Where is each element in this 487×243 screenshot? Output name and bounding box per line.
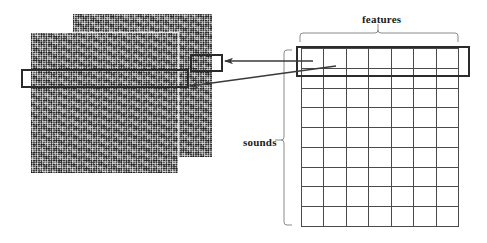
matrix-cell: [392, 148, 414, 168]
matrix-cell: [392, 108, 414, 128]
matrix-cell: [437, 187, 459, 207]
matrix-cell: [347, 207, 369, 227]
matrix-cell: [369, 128, 391, 148]
matrix-cell: [369, 207, 391, 227]
matrix-cell: [392, 168, 414, 188]
matrix-cell: [392, 207, 414, 227]
matrix-cell: [324, 108, 346, 128]
features-brace: [300, 24, 458, 42]
matrix-cell: [437, 108, 459, 128]
matrix-cell: [324, 207, 346, 227]
matrix-cell: [324, 128, 346, 148]
noise-image-front: [31, 33, 178, 173]
matrix-cell: [414, 128, 436, 148]
matrix-cell: [369, 168, 391, 188]
matrix-cell: [347, 148, 369, 168]
matrix-cell: [392, 128, 414, 148]
matrix-cell: [302, 108, 324, 128]
matrix-cell: [414, 187, 436, 207]
matrix-cell: [437, 89, 459, 109]
features-label: features: [362, 13, 401, 25]
matrix-cell: [302, 89, 324, 109]
matrix-cell: [302, 128, 324, 148]
matrix-cell: [392, 89, 414, 109]
matrix-cell: [324, 168, 346, 188]
matrix-cell: [392, 187, 414, 207]
matrix-cell: [369, 89, 391, 109]
noise-image-back-row-highlight: [190, 54, 223, 72]
figure-canvas: features sounds: [0, 0, 487, 243]
matrix-cell: [347, 89, 369, 109]
noise-image-front-row-highlight: [21, 69, 189, 88]
matrix-cell: [414, 108, 436, 128]
matrix-cell: [437, 207, 459, 227]
matrix-cell: [437, 168, 459, 188]
sounds-label: sounds: [243, 136, 277, 148]
matrix-cell: [324, 89, 346, 109]
matrix-cell: [347, 187, 369, 207]
matrix-cell: [302, 168, 324, 188]
matrix-cell: [324, 148, 346, 168]
matrix-cell: [347, 128, 369, 148]
matrix-cell: [414, 207, 436, 227]
matrix-cell: [302, 207, 324, 227]
matrix-cell: [302, 187, 324, 207]
matrix-row-highlight: [296, 46, 470, 77]
matrix-cell: [347, 108, 369, 128]
matrix-cell: [369, 108, 391, 128]
matrix-cell: [369, 187, 391, 207]
matrix-cell: [324, 187, 346, 207]
matrix-cell: [347, 168, 369, 188]
matrix-cell: [302, 148, 324, 168]
matrix-cell: [437, 148, 459, 168]
sounds-brace: [275, 50, 292, 225]
matrix-cell: [437, 128, 459, 148]
matrix-cell: [414, 168, 436, 188]
matrix-cell: [414, 89, 436, 109]
matrix-cell: [414, 148, 436, 168]
matrix-cell: [369, 148, 391, 168]
